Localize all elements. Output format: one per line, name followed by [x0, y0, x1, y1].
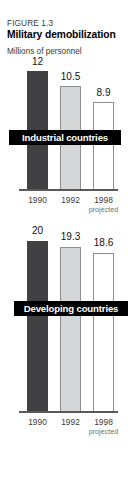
page-title: Military demobilization — [7, 29, 116, 40]
axis-line-industrial — [19, 189, 118, 191]
chart-panel-industrial: 12 10.5 8.9 1990 1992 1998 projected Ind… — [0, 57, 128, 217]
x-label-industrial-1998: 1998 — [83, 195, 124, 205]
bar-developing-1990 — [27, 241, 48, 413]
x-sublabel-industrial-1998: projected — [83, 205, 124, 214]
x-label-developing-1998: 1998 — [83, 417, 124, 427]
figure-number: FIGURE 1.3 — [7, 19, 53, 28]
bar-value-developing-1998: 18.6 — [83, 237, 124, 248]
chart-panel-developing: 20 19.3 18.6 1990 1992 1998 projected De… — [0, 217, 128, 469]
bar-industrial-1998 — [93, 102, 114, 191]
x-sublabel-developing-1998: projected — [83, 427, 124, 436]
plot-area-industrial: 12 10.5 8.9 1990 1992 1998 projected — [0, 57, 128, 191]
figure-military-demobilization: FIGURE 1.3 Military demobilization Milli… — [0, 0, 128, 484]
bar-value-industrial-1998: 8.9 — [83, 87, 124, 98]
bar-developing-1998 — [93, 253, 114, 413]
axis-line-developing — [19, 411, 118, 413]
panel-banner-developing: Developing countries — [14, 301, 128, 316]
bar-value-industrial-1992: 10.5 — [50, 71, 91, 82]
bar-developing-1992 — [60, 247, 81, 413]
bar-value-industrial-1990: 12 — [17, 56, 58, 67]
panel-banner-industrial: Industrial countries — [9, 130, 121, 145]
units-label: Millions of personnel — [7, 47, 82, 56]
